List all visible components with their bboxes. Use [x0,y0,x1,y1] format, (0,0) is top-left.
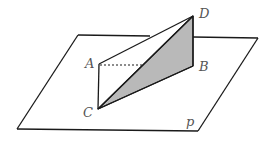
label-plane-p: p [186,114,195,129]
label-c: C [83,105,93,120]
label-d: D [198,6,210,21]
plane-edge-top-left [78,35,150,36]
plane-edge-left [17,35,78,129]
geometry-diagram: D A B C p [0,0,271,141]
label-a: A [84,56,94,71]
plane-edge-bottom [17,129,198,131]
label-b: B [198,59,209,74]
plane-edge-right [198,38,258,131]
plane-edge-top-right [193,37,258,38]
